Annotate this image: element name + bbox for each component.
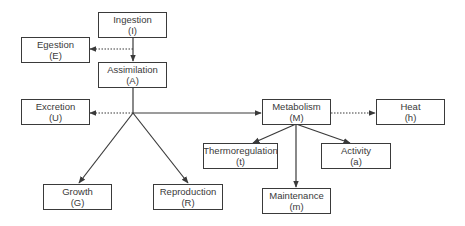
node-label: Metabolism — [272, 101, 321, 113]
node-symbol: (M) — [289, 112, 303, 124]
node-label: Excretion — [36, 101, 76, 113]
edge-activity — [296, 124, 350, 143]
node-heat: Heat (h) — [376, 99, 445, 125]
node-label: Heat — [400, 101, 420, 113]
node-growth: Growth (G) — [43, 184, 112, 210]
node-label: Growth — [62, 186, 93, 198]
node-maintenance: Maintenance (m) — [262, 188, 331, 214]
node-thermoregulation: Thermoregulation (t) — [203, 143, 278, 169]
node-assimilation: Assimilation (A) — [98, 62, 167, 88]
energy-budget-diagram: Ingestion (I) Egestion (E) Assimilation … — [0, 0, 465, 226]
node-ingestion: Ingestion (I) — [98, 12, 167, 38]
node-symbol: (I) — [128, 25, 137, 37]
node-symbol: (t) — [236, 156, 245, 168]
node-label: Egestion — [37, 39, 74, 51]
node-label: Ingestion — [113, 14, 152, 26]
node-symbol: (a) — [350, 156, 362, 168]
node-label: Thermoregulation — [203, 145, 277, 157]
node-label: Reproduction — [160, 186, 217, 198]
node-symbol: (G) — [71, 197, 85, 209]
node-label: Assimilation — [107, 64, 158, 76]
node-symbol: (R) — [181, 197, 194, 209]
node-symbol: (U) — [49, 112, 62, 124]
node-symbol: (E) — [49, 50, 62, 62]
node-symbol: (A) — [126, 75, 139, 87]
node-label: Activity — [341, 145, 371, 157]
node-activity: Activity (a) — [321, 143, 391, 169]
node-reproduction: Reproduction (R) — [153, 184, 223, 210]
node-label: Maintenance — [269, 190, 323, 202]
node-symbol: (h) — [405, 112, 417, 124]
node-metabolism: Metabolism (M) — [262, 99, 331, 125]
edge-thermoregulation — [253, 124, 296, 143]
edge-reproduction — [133, 113, 188, 183]
node-egestion: Egestion (E) — [21, 37, 90, 63]
node-symbol: (m) — [289, 201, 303, 213]
node-excretion: Excretion (U) — [21, 99, 90, 125]
